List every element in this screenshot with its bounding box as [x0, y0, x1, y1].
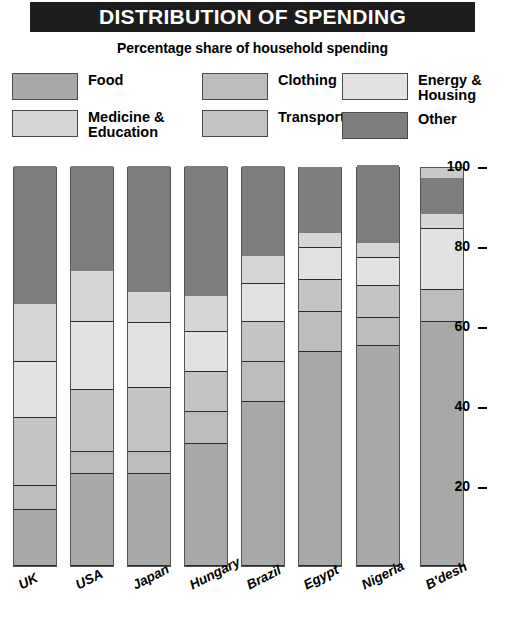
legend-item-medicine-education: Medicine & Education: [12, 109, 165, 139]
bar-usa[interactable]: [70, 167, 114, 567]
segment-energy_housing: [357, 258, 399, 286]
segment-energy_housing: [421, 229, 463, 290]
segment-transport: [242, 322, 284, 362]
y-axis-dash-100: [478, 167, 487, 169]
legend-column-2: Clothing Transport: [202, 72, 345, 146]
segment-food: [71, 474, 113, 566]
segment-transport: [71, 390, 113, 452]
legend-item-clothing: Clothing: [202, 72, 345, 100]
category-label-usa: USA: [73, 566, 105, 592]
segment-other: [71, 166, 113, 271]
segment-clothing: [242, 362, 284, 402]
segment-medicine_education: [14, 304, 56, 362]
segment-other: [185, 166, 227, 296]
legend-swatch-other: [342, 112, 408, 139]
segment-food: [421, 322, 463, 566]
legend: Food Medicine & Education Clothing Trans…: [12, 72, 492, 147]
segment-transport: [185, 372, 227, 412]
y-axis-dash-80: [478, 247, 487, 249]
segment-energy_housing: [128, 323, 170, 388]
chart-subtitle: Percentage share of household spending: [0, 40, 505, 56]
segment-transport: [357, 286, 399, 318]
legend-item-energy-housing: Energy & Housing: [342, 72, 482, 102]
legend-label-medicine-education: Medicine & Education: [88, 109, 165, 139]
legend-column-3: Energy & Housing Other: [342, 72, 482, 148]
segment-other: [421, 178, 463, 214]
segment-other: [357, 165, 399, 243]
category-label-uk: UK: [16, 570, 40, 592]
segment-clothing: [299, 312, 341, 352]
bar-japan[interactable]: [127, 167, 171, 567]
segment-clothing: [421, 290, 463, 322]
segment-energy_housing: [242, 284, 284, 322]
y-axis-dash-20: [478, 487, 487, 489]
segment-other: [128, 166, 170, 292]
segment-medicine_education: [421, 214, 463, 229]
segment-medicine_education: [357, 243, 399, 258]
bar-brazil[interactable]: [241, 167, 285, 567]
legend-swatch-medicine-education: [12, 110, 78, 137]
segment-energy_housing: [185, 332, 227, 372]
segment-medicine_education: [71, 271, 113, 322]
segment-energy_housing: [299, 248, 341, 280]
segment-other: [299, 167, 341, 233]
segment-clothing: [357, 318, 399, 346]
legend-label-clothing: Clothing: [278, 72, 337, 88]
legend-swatch-transport: [202, 110, 268, 137]
segment-clothing: [185, 412, 227, 444]
legend-item-food: Food: [12, 72, 165, 100]
legend-label-transport: Transport: [278, 109, 345, 125]
segment-other: [242, 166, 284, 256]
segment-energy_housing: [14, 362, 56, 418]
bar-bdesh[interactable]: [420, 167, 464, 567]
segment-clothing: [14, 486, 56, 510]
segment-medicine_education: [242, 256, 284, 284]
legend-label-other: Other: [418, 111, 457, 127]
legend-item-transport: Transport: [202, 109, 345, 137]
segment-food: [185, 444, 227, 566]
segment-transport: [128, 388, 170, 452]
bar-nigeria[interactable]: [356, 167, 400, 567]
legend-item-other: Other: [342, 111, 482, 139]
segment-energy_housing: [71, 322, 113, 390]
y-axis-dash-40: [478, 407, 487, 409]
legend-swatch-clothing: [202, 73, 268, 100]
legend-column-1: Food Medicine & Education: [12, 72, 165, 148]
segment-clothing: [128, 452, 170, 474]
segment-medicine_education: [128, 292, 170, 323]
segment-medicine_education: [299, 233, 341, 248]
bar-uk[interactable]: [13, 167, 57, 567]
legend-swatch-energy-housing: [342, 73, 408, 100]
page-title: DISTRIBUTION OF SPENDING: [99, 5, 406, 29]
legend-swatch-food: [12, 73, 78, 100]
segment-other: [14, 166, 56, 304]
segment-food: [14, 510, 56, 566]
bar-hungary[interactable]: [184, 167, 228, 567]
segment-clothing: [71, 452, 113, 474]
segment-food: [242, 402, 284, 566]
segment-transport: [299, 280, 341, 312]
bar-egypt[interactable]: [298, 167, 342, 567]
segment-transport: [14, 418, 56, 486]
y-axis-dash-60: [478, 327, 487, 329]
legend-label-food: Food: [88, 72, 123, 88]
title-bar: DISTRIBUTION OF SPENDING: [30, 2, 475, 32]
segment-medicine_education: [185, 296, 227, 332]
segment-food: [357, 346, 399, 566]
segment-food: [299, 352, 341, 566]
segment-food: [128, 474, 170, 566]
legend-label-energy-housing: Energy & Housing: [418, 72, 482, 102]
